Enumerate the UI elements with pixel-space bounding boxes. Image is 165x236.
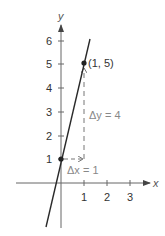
slope-diagram: 1 2 3 x 1 2 3 4 5 6 y Δx = 1 Δy = 4 (1, …: [0, 0, 165, 236]
y-tick-label-1: 1: [46, 153, 52, 165]
y-tick-label-5: 5: [46, 58, 52, 70]
delta-y-label: Δy = 4: [89, 109, 121, 121]
y-axis-label: y: [57, 10, 65, 22]
y-tick-label-4: 4: [46, 82, 52, 94]
x-tick-label-1: 1: [81, 191, 87, 203]
point-0-1: [58, 156, 63, 161]
y-tick-label-6: 6: [46, 35, 52, 47]
y-axis: 1 2 3 4 5 6 y: [46, 10, 65, 228]
delta-x-annotation: Δx = 1: [64, 159, 99, 176]
delta-y-annotation: Δy = 4: [84, 68, 121, 159]
x-axis: 1 2 3 x: [16, 177, 159, 203]
x-tick-label-3: 3: [127, 191, 133, 203]
y-tick-label-3: 3: [46, 106, 52, 118]
delta-x-label: Δx = 1: [67, 164, 99, 176]
y-tick-label-2: 2: [46, 130, 52, 142]
point-1-5: [81, 60, 86, 65]
x-tick-label-2: 2: [104, 191, 110, 203]
point-label-1-5: (1, 5): [88, 57, 114, 69]
x-axis-label: x: [152, 177, 159, 189]
